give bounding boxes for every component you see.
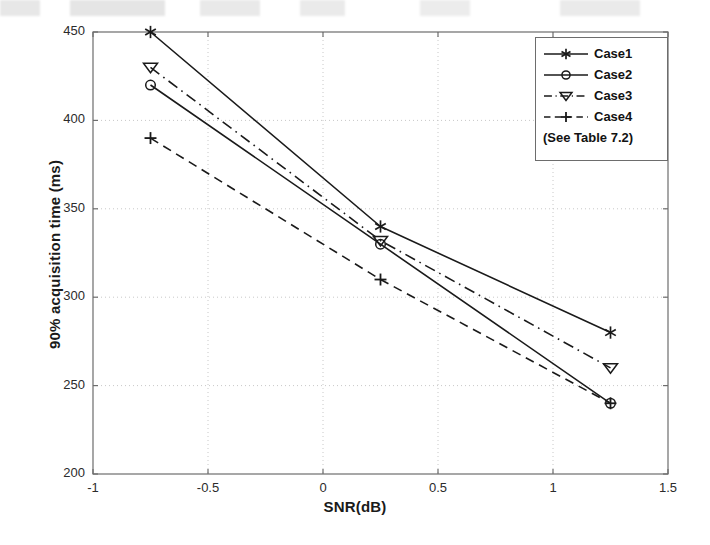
legend-label: Case4 xyxy=(594,109,632,124)
chart-figure: 200250300350400450 -1-0.500.511.5 SNR(dB… xyxy=(0,0,710,545)
legend-plus-icon xyxy=(543,110,589,124)
legend-circle-icon xyxy=(543,68,589,82)
legend-item-case3[interactable]: Case3 xyxy=(543,85,659,106)
legend-label: Case3 xyxy=(594,88,632,103)
legend-item-case1[interactable]: Case1 xyxy=(543,43,659,64)
legend[interactable]: Case1Case2Case3Case4 (See Table 7.2) xyxy=(535,37,668,161)
x-tick-label: 0.5 xyxy=(408,480,468,495)
legend-triangle-down-icon xyxy=(543,89,589,103)
y-axis-title: 90% acquisition time (ms) xyxy=(46,25,63,485)
x-axis-title: SNR(dB) xyxy=(0,498,710,515)
x-tick-label: -0.5 xyxy=(178,480,238,495)
legend-note: (See Table 7.2) xyxy=(543,130,659,145)
legend-entries: Case1Case2Case3Case4 xyxy=(543,43,659,127)
x-tick-label: -1 xyxy=(63,480,123,495)
legend-label: Case1 xyxy=(594,46,632,61)
series-case4 xyxy=(145,132,617,409)
legend-item-case2[interactable]: Case2 xyxy=(543,64,659,85)
x-tick-label: 1.5 xyxy=(638,480,698,495)
legend-item-case4[interactable]: Case4 xyxy=(543,106,659,127)
legend-label: Case2 xyxy=(594,67,632,82)
x-tick-label: 0 xyxy=(293,480,353,495)
legend-star-icon xyxy=(543,47,589,61)
x-tick-label: 1 xyxy=(523,480,583,495)
